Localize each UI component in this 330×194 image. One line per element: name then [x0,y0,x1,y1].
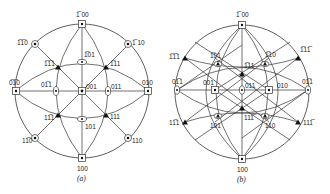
label-a-top: 1̅ 00 [76,11,89,18]
pole-dot [81,118,83,120]
pole-dot [107,90,109,92]
pole-dot [127,137,130,140]
pole-dot [241,158,243,160]
label-a-tri-lr: 111 [110,113,120,120]
label-b-u2: 1̅11 [244,62,255,69]
stereographic-projections-figure: 1̅ 00 100 0̅1̅0 010 001 1̅1̅0 1̅ 10 11̅0… [0,0,330,194]
label-b-u1: 1̅01 [210,52,221,59]
great-circle-upper-b [185,58,298,67]
label-b-lr: 111̅ [303,119,315,126]
label-a-right: 010 [142,79,153,86]
pole-dot [81,61,83,63]
label-a-bottom: 100 [77,165,88,172]
label-b-left: 01̅1 [172,78,183,85]
label-a-lower-mid: 101 [85,123,96,130]
label-b-bottom: 100 [237,166,248,173]
label-a-upper-mid: 1̅01 [84,51,95,58]
label-a-center: 001 [86,83,97,90]
label-b-l2: 111̅ [244,114,256,121]
label-b-l1: 101 [210,122,221,129]
label-a-right-mid: 011 [111,83,122,90]
panel-b: 1̅ 00 100 01̅1 01̅1 001 011 010 1̅1̅1 1̅… [169,11,315,184]
pole-dot [307,89,309,91]
panel-a: 1̅ 00 100 0̅1̅0 010 001 1̅1̅0 1̅ 10 11̅0… [9,11,153,183]
label-a-left-mid: 01̅1 [41,81,52,88]
pole-dot [81,157,83,159]
label-a-lr: 110 [132,137,143,144]
label-a-ll: 11̅0 [22,137,33,144]
caption-a: (a) [77,174,86,183]
pole-dot [81,23,83,25]
pole-dot [241,24,243,26]
label-a-tri-ur: 1̅11 [110,60,121,67]
label-b-ll: 11̅1 [169,119,180,126]
label-a-tri-ul: 1̅1̅1 [44,60,55,67]
pole-dot [34,137,37,140]
pole-dot [241,89,243,91]
pole-dot [214,89,216,91]
pole-dot [34,43,37,46]
pole-dot [15,90,17,92]
label-b-u3: 1̅10 [265,51,276,58]
pole-dot [147,90,149,92]
great-circle-lower-b [185,113,298,122]
label-b-ul: 1̅1̅1 [169,53,180,60]
label-a-ul: 1̅1̅0 [17,39,28,46]
pole-symbols-b [174,22,310,163]
label-b-c1: 001 [203,79,214,86]
pole-dot [81,90,84,93]
pole-dot [55,90,57,92]
label-b-l3: 110 [265,122,276,129]
triangle-pole-icon [182,56,188,61]
label-b-ur: 1̅11̅ [300,46,312,53]
label-b-c3: 010 [277,82,288,89]
label-a-left: 0̅1̅0 [9,79,20,86]
label-b-top: 1̅ 00 [236,11,249,18]
pole-dot [127,43,130,46]
meridian-left-b [216,25,242,159]
label-b-right: 01̅1 [302,78,313,85]
meridian-right-b [242,25,268,159]
pole-dot [268,89,270,91]
label-a-tri-ll: 11̅1 [44,114,55,121]
label-a-ur: 1̅ 10 [132,39,145,46]
label-b-c2: 011 [245,82,256,89]
caption-b: (b) [237,175,246,184]
pole-dot [176,89,178,91]
